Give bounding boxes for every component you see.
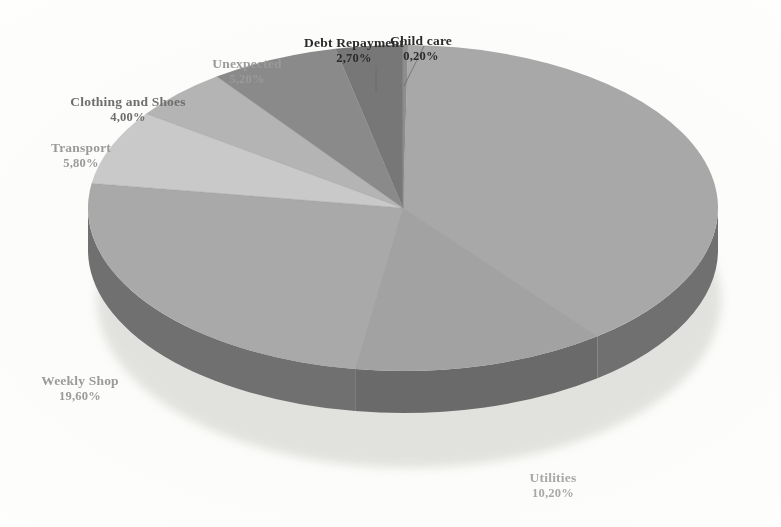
pie-label-value: 30,70%: [655, 158, 697, 173]
pie-label-name: Clothing and Shoes: [70, 94, 185, 110]
pie-label-debt-repayment: Debt Repayment2,70%: [304, 35, 404, 66]
pie-label-value: 10,20%: [530, 486, 577, 501]
pie-label-weekly-shop: Weekly Shop19,60%: [41, 373, 119, 404]
pie-label-value: 4,00%: [70, 110, 185, 125]
pie-label-utilities: Utilities10,20%: [530, 470, 577, 501]
pie-chart-3d: [0, 0, 781, 527]
pie-label-rent: Rent30,70%: [655, 142, 697, 173]
pie-label-unexpected: Unexpected5,20%: [212, 56, 282, 87]
pie-label-name: Transport: [51, 140, 111, 156]
pie-label-name: Weekly Shop: [41, 373, 119, 389]
pie-label-transport: Transport5,80%: [51, 140, 111, 171]
pie-label-value: 19,60%: [41, 389, 119, 404]
pie-label-name: Rent: [655, 142, 697, 158]
pie-label-name: Unexpected: [212, 56, 282, 72]
pie-label-clothing-and-shoes: Clothing and Shoes4,00%: [70, 94, 185, 125]
pie-label-name: Debt Repayment: [304, 35, 404, 51]
chart-canvas: Child care0,20%Rent30,70%Utilities10,20%…: [0, 0, 781, 527]
pie-label-value: 5,80%: [51, 156, 111, 171]
pie-label-name: Utilities: [530, 470, 577, 486]
pie-label-value: 5,20%: [212, 72, 282, 87]
pie-label-value: 2,70%: [304, 51, 404, 66]
